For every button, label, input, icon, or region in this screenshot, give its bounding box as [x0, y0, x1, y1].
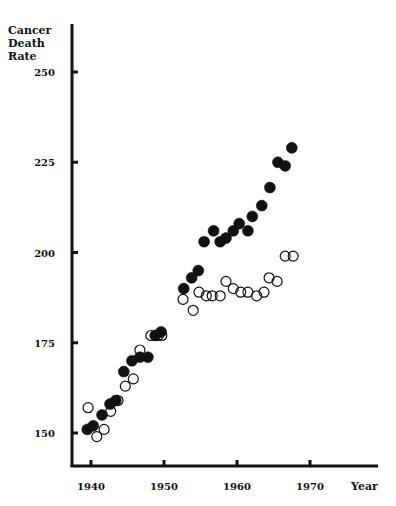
data-point-filled — [234, 218, 245, 229]
data-point-filled — [286, 142, 297, 153]
data-point-filled — [178, 283, 189, 294]
data-point-filled — [118, 366, 129, 377]
data-point-open — [120, 381, 130, 391]
x-tick-label: 1960 — [223, 481, 251, 492]
data-point-filled — [88, 420, 99, 431]
y-axis-title: Cancer Death Rate — [8, 24, 52, 63]
chart: Cancer Death Rate Year 150175200225250 1… — [0, 0, 396, 506]
y-axis-title-line: Death — [8, 37, 45, 50]
data-point-filled — [264, 182, 275, 193]
x-tick-label: 1940 — [77, 481, 105, 492]
data-point-filled — [247, 211, 258, 222]
y-tick-label: 225 — [34, 157, 55, 168]
data-points — [82, 142, 298, 441]
data-point-open — [178, 294, 188, 304]
data-point-filled — [199, 236, 210, 247]
data-point-open — [128, 374, 138, 384]
y-axis-title-line: Rate — [8, 50, 37, 63]
x-tick-label: 1970 — [296, 481, 324, 492]
series-filled — [82, 142, 297, 435]
y-axis-title-line: Cancer — [8, 24, 52, 37]
data-point-filled — [193, 265, 204, 276]
data-point-open — [188, 305, 198, 315]
data-point-filled — [242, 225, 253, 236]
data-point-filled — [208, 225, 219, 236]
x-tick-label: 1950 — [150, 481, 178, 492]
data-point-open — [272, 276, 282, 286]
data-point-open — [83, 403, 93, 413]
data-point-open — [99, 424, 109, 434]
data-point-filled — [256, 200, 267, 211]
data-point-filled — [280, 160, 291, 171]
y-tick-label: 175 — [34, 338, 55, 349]
y-tick-label: 200 — [34, 248, 55, 259]
y-tick-label: 250 — [34, 67, 55, 78]
y-tick-label: 150 — [34, 428, 55, 439]
x-axis-title: Year — [350, 480, 378, 493]
